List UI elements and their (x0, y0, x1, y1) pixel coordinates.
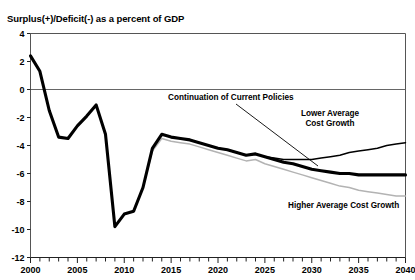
chart-plot-area: 420-2-4-6-8-10-1220002005201020152020202… (0, 0, 415, 280)
y-axis-tick-label: -10 (11, 225, 24, 235)
x-axis-tick-label: 2025 (255, 265, 275, 275)
chart-container: Surplus(+)/Deficit(-) as a percent of GD… (0, 0, 415, 280)
y-axis-tick-label: -6 (16, 169, 24, 179)
annotation-label-lower-average-cost-growth: Lower Average (301, 109, 360, 118)
x-axis-tick-label: 2040 (395, 265, 415, 275)
x-axis-tick-label: 2005 (67, 265, 87, 275)
annotation-label-continuation-of-current-policies: Continuation of Current Policies (168, 93, 294, 102)
y-axis-tick-label: 2 (19, 57, 24, 67)
x-axis-tick-label: 2020 (208, 265, 228, 275)
y-axis-tick-label: 0 (19, 85, 24, 95)
y-axis-tick-label: -4 (16, 141, 24, 151)
annotations-layer: Continuation of Current PoliciesLower Av… (168, 93, 399, 210)
series-line (143, 139, 406, 196)
y-axis-tick-label: -2 (16, 113, 24, 123)
x-axis-tick-label: 2000 (20, 265, 40, 275)
x-axis-tick-label: 2010 (114, 265, 134, 275)
x-axis-tick-label: 2030 (302, 265, 322, 275)
y-axis-tick-label: 4 (19, 29, 24, 39)
y-axis-tick-label: -12 (11, 253, 24, 263)
annotation-label-higher-average-cost-growth: Higher Average Cost Growth (288, 201, 399, 210)
x-axis-tick-label: 2015 (161, 265, 181, 275)
plot-frame (31, 34, 406, 258)
y-axis-tick-label: -8 (16, 197, 24, 207)
x-axis-tick-label: 2035 (349, 265, 369, 275)
annotation-label-lower-average-cost-growth: Cost Growth (305, 119, 354, 128)
